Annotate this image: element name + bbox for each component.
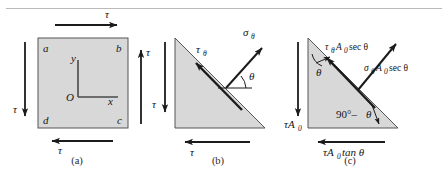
panel-c-angle-bottom-label: 90°– θ xyxy=(336,108,372,120)
panel-c-sigma-theta-force-label: σ θ A 0 sec θ xyxy=(364,63,409,76)
caption-b: (b) xyxy=(198,155,238,166)
svg-text:τA: τA xyxy=(284,118,295,130)
svg-text:sec θ: sec θ xyxy=(349,42,369,52)
caption-a: (a) xyxy=(57,155,97,166)
svg-text:0: 0 xyxy=(298,124,302,133)
svg-text:θ: θ xyxy=(371,67,375,76)
panel-c-tau-a0-label: τA 0 xyxy=(284,118,302,133)
svg-text:0: 0 xyxy=(384,67,388,76)
svg-text:σ: σ xyxy=(364,63,369,73)
svg-text:0: 0 xyxy=(344,46,348,55)
svg-text:A: A xyxy=(375,63,382,73)
svg-text:90°–: 90°– xyxy=(336,108,357,120)
svg-text:θ: θ xyxy=(366,108,372,120)
svg-text:θ: θ xyxy=(331,46,335,55)
shear-stress-figure: a b c d O x y τ τ τ τ τ τ τ xyxy=(0,0,448,178)
svg-text:sec θ: sec θ xyxy=(389,63,409,73)
svg-text:τ: τ xyxy=(325,42,329,52)
caption-c: (c) xyxy=(330,155,370,166)
panel-c-graphic: τA 0 τA 0 tan θ τ θ A 0 sec θ σ θ A 0 se… xyxy=(0,0,448,178)
svg-text:A: A xyxy=(335,42,342,52)
panel-c-tau-theta-force-label: τ θ A 0 sec θ xyxy=(325,42,369,55)
panel-c-theta-label: θ xyxy=(316,66,322,78)
